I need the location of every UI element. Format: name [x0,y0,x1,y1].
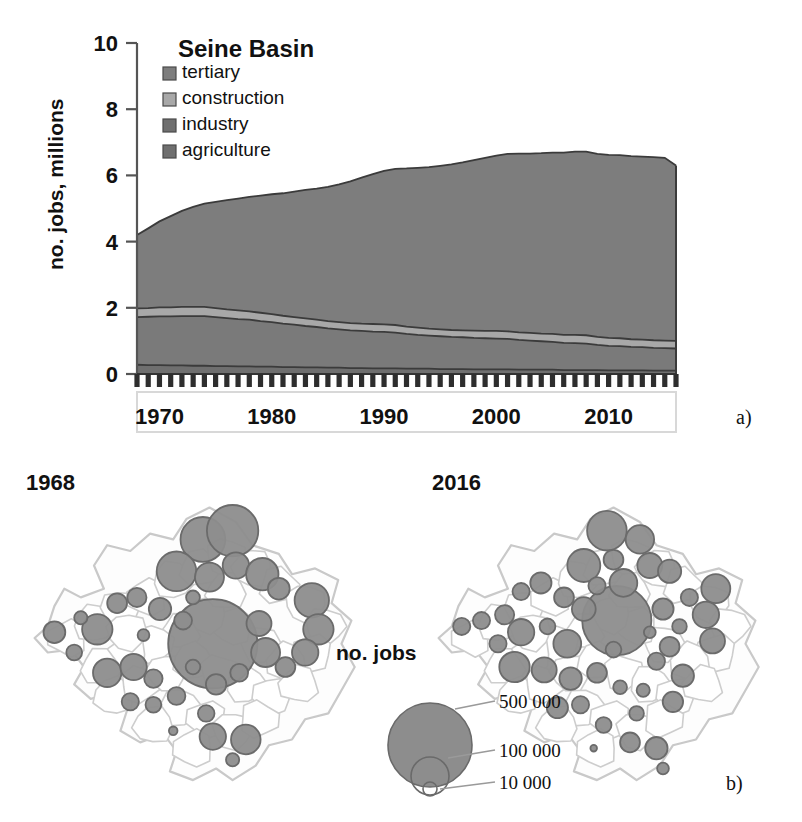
job-bubble [66,645,82,661]
job-bubble [613,680,627,694]
job-bubble [223,552,249,578]
legend-swatch-industry [163,119,176,132]
job-bubble [590,745,597,752]
x-axis-tick-labels: 19701980199020002010 [135,404,633,429]
legend-label-tertiary: tertiary [182,61,241,82]
job-bubble [186,660,201,675]
job-bubble [606,642,622,658]
job-bubble [540,619,556,635]
job-bubble [138,629,150,641]
job-bubble [648,653,665,670]
job-bubble [149,598,171,620]
job-bubble [553,630,581,658]
size-legend-leader-500000 [455,701,495,709]
size-legend-label-100000: 100 000 [499,740,561,761]
job-bubble [701,574,730,603]
job-bubble [572,696,589,713]
panel-b-bubble-maps: 1968 2016 no. jobs 500 000 100 00 [0,445,802,822]
job-bubble [652,598,673,619]
x-tick-label-1990: 1990 [360,404,409,429]
panel-b-letter: b) [726,772,743,795]
job-bubble [144,669,162,687]
map-caption-no-jobs: no. jobs [336,641,417,664]
chart-svg: 0246810 19701980199020002010 no. jobs, m… [0,0,802,445]
job-bubble [226,753,239,766]
job-bubble [231,725,261,755]
job-bubble [530,572,551,593]
size-legend-circle-500000 [388,703,472,787]
job-bubble [174,612,192,630]
job-bubble [532,657,557,682]
job-bubble [572,597,596,621]
y-axis-ticks: 0246810 [94,31,137,387]
job-bubble [663,692,683,712]
job-bubble [489,635,506,652]
job-bubble [587,663,607,683]
job-bubble [74,611,87,624]
job-bubble [637,684,650,697]
x-tick-label-2010: 2010 [584,404,633,429]
job-bubble [604,550,624,570]
size-legend: 500 000 100 000 10 000 [388,691,561,796]
job-bubble [453,618,470,635]
x-tick-label-1970: 1970 [135,404,184,429]
y-tick-label-0: 0 [106,362,118,387]
job-bubble [169,727,178,736]
y-tick-label-10: 10 [94,31,118,56]
job-bubble [499,652,529,682]
map-1968: 1968 [26,470,355,780]
y-tick-label-6: 6 [106,163,118,188]
job-bubble [610,569,638,597]
legend-label-agriculture: agriculture [182,139,271,160]
job-bubble [672,665,694,687]
job-bubble [660,637,680,657]
job-bubble [559,667,581,689]
job-bubble [292,639,318,665]
job-bubble [251,638,280,667]
size-legend-label-500000: 500 000 [499,691,561,712]
job-bubble [195,563,224,592]
job-bubble [120,654,146,680]
job-bubble [588,577,605,594]
job-bubble [658,560,681,583]
job-bubble [681,589,698,606]
job-bubble [596,717,612,733]
size-legend-label-10000: 10 000 [499,772,551,793]
legend-label-construction: construction [182,87,284,108]
job-bubble [554,588,574,608]
job-bubble [495,605,514,624]
y-tick-label-4: 4 [106,230,119,255]
x-axis-minor-ticks [137,374,676,387]
job-bubble [268,578,290,600]
job-bubble [657,763,669,775]
job-bubble [168,687,186,705]
job-bubble [200,723,226,749]
job-bubble [186,591,200,605]
job-bubble [693,602,719,628]
job-bubble [587,511,627,551]
job-bubble [207,505,258,556]
job-bubble [247,611,272,636]
maps-svg: 1968 2016 no. jobs 500 000 100 00 [0,445,802,822]
legend-swatch-construction [163,93,176,106]
job-bubble [295,583,329,617]
map-2016: 2016 [432,470,759,780]
map-1968-year-label: 1968 [26,470,75,495]
job-bubble [93,659,121,687]
panel-a-stacked-area-chart: 0246810 19701980199020002010 no. jobs, m… [0,0,802,445]
figure-root: 0246810 19701980199020002010 no. jobs, m… [0,0,802,822]
job-bubble [44,621,66,643]
job-bubble [198,705,215,722]
job-bubble [473,612,490,629]
job-bubble [122,693,139,710]
job-bubble [700,628,725,653]
job-bubble [508,619,534,645]
job-bubble [629,706,644,721]
chart-title: Seine Basin [178,35,314,62]
job-bubble [672,619,687,634]
legend-swatch-tertiary [163,67,176,80]
job-bubble [127,588,146,607]
job-bubble [157,552,197,592]
job-bubble [620,733,640,753]
legend-label-industry: industry [182,113,249,134]
